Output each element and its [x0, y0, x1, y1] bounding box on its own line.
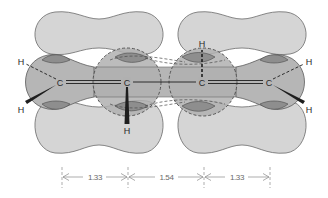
pi-lobe-top-left: [35, 12, 163, 55]
dim-label-c1-c2: 1.33: [88, 173, 103, 182]
atom-h4a: H: [306, 57, 313, 67]
atom-h3: H: [199, 39, 206, 49]
atom-h2: H: [124, 126, 131, 136]
pi-lobe-top-right: [178, 12, 306, 55]
atom-c4: C: [266, 78, 273, 88]
atom-c2: C: [124, 78, 131, 88]
dim-label-c2-c3: 1.54: [160, 173, 175, 182]
dimension-labels: 1.33 1.54 1.33: [88, 173, 245, 182]
atom-h1a: H: [18, 57, 25, 67]
dim-label-c3-c4: 1.33: [230, 173, 245, 182]
atom-c1: C: [57, 78, 64, 88]
atom-h1b: H: [18, 105, 25, 115]
butadiene-orbital-diagram: C C C C H H H H H H 1.33 1.54 1.33: [0, 0, 328, 198]
atom-h4b: H: [306, 105, 313, 115]
atom-c3: C: [199, 78, 206, 88]
